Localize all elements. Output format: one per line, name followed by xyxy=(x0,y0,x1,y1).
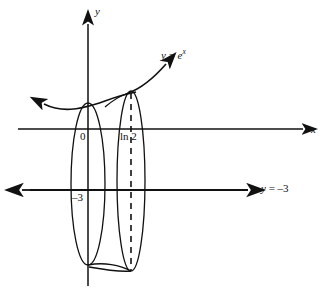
revolution-label-value: –3 xyxy=(278,182,289,194)
exponential-curve-left-branch xyxy=(44,92,136,109)
curve-label-equals: = xyxy=(166,49,178,61)
axis-of-revolution-label: y = –3 xyxy=(261,183,289,194)
exponential-curve-right-branch xyxy=(128,64,166,93)
revolution-label-equals: = xyxy=(266,182,278,194)
figure-canvas xyxy=(0,0,325,294)
x-axis-label: x xyxy=(311,124,316,135)
y-axis-label: y xyxy=(95,6,100,17)
tick-label-negative-three: –3 xyxy=(72,192,83,203)
curve-label-exponent: x xyxy=(183,47,186,56)
tick-label-zero: 0 xyxy=(80,131,86,142)
solid-of-revolution-figure: y x 0 ln 2 –3 y = ex y = –3 xyxy=(0,0,325,294)
tick-label-ln-2: ln 2 xyxy=(120,131,137,142)
curve-equation-label: y = ex xyxy=(161,50,186,61)
